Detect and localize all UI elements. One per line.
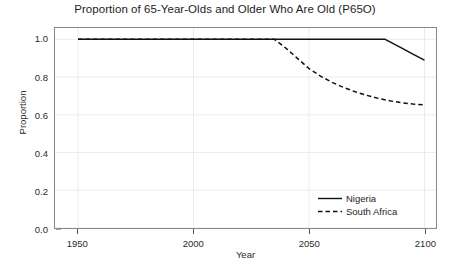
chart-title: Proportion of 65-Year-Olds and Older Who… — [0, 3, 450, 15]
legend-item-south-africa: South Africa — [317, 206, 397, 217]
series-line-south-africa — [78, 39, 424, 105]
chart-legend: Nigeria South Africa — [317, 193, 397, 217]
legend-label-south-africa: South Africa — [346, 206, 397, 217]
y-tick-label: 1.0 — [12, 33, 48, 44]
x-tick-label: 2050 — [299, 238, 320, 249]
y-tick-label: 0.2 — [12, 185, 48, 196]
x-tick-mark — [309, 229, 310, 234]
legend-label-nigeria: Nigeria — [346, 193, 376, 204]
x-tick-label: 2100 — [415, 238, 436, 249]
series-line-nigeria — [78, 39, 424, 60]
x-tick-label: 1950 — [67, 238, 88, 249]
legend-line-solid-icon — [317, 194, 343, 203]
y-axis-ticks: 0.00.20.40.60.81.0 — [8, 27, 48, 229]
chart-container: Proportion of 65-Year-Olds and Older Who… — [0, 0, 450, 271]
x-tick-mark — [77, 229, 78, 234]
y-tick-label: 0.4 — [12, 147, 48, 158]
y-tick-label: 0.8 — [12, 71, 48, 82]
y-tick-label: 0.6 — [12, 109, 48, 120]
x-tick-mark — [193, 229, 194, 234]
x-tick-label: 2000 — [183, 238, 204, 249]
y-tick-label: 0.0 — [12, 224, 48, 235]
x-axis-title: Year — [54, 249, 437, 260]
x-tick-mark — [425, 229, 426, 234]
legend-item-nigeria: Nigeria — [317, 193, 397, 204]
legend-line-dashed-icon — [317, 207, 343, 216]
